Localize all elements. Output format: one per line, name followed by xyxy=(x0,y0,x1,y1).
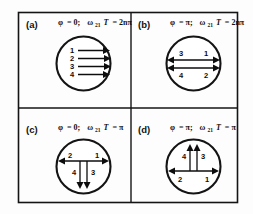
panel-a-circle xyxy=(57,37,111,91)
panel-d-period-value: = π xyxy=(225,123,237,132)
panel-b-condition: φ = π; ω 21 T = 2nπ xyxy=(170,18,245,29)
panel-b-label: (b) xyxy=(138,19,150,30)
panel-b-period-symbol: T xyxy=(216,18,222,27)
panel-b-phi-symbol: φ xyxy=(170,18,175,27)
panel-a-period-symbol: T xyxy=(104,18,110,27)
panel-a-period-value: = 2nπ xyxy=(112,18,132,27)
panel-c-omega-symbol: ω xyxy=(87,123,93,132)
panel-c-period-value: = π xyxy=(112,123,124,132)
svg-text:φ = 0; ω: φ = 0; ω 21 T = 2nπ xyxy=(58,18,132,29)
panel-b-circle xyxy=(167,37,221,91)
panel-c-condition: φ = 0; ω 21 T = π xyxy=(58,123,124,134)
panel-b-label-3: 3 xyxy=(179,49,183,58)
figure-root: (a) φ = 0; ω 21 T = 2nπ xyxy=(0,0,253,214)
panel-d-omega-subscript: 21 xyxy=(207,127,213,133)
panel-d-phi-symbol: φ xyxy=(170,123,175,132)
panel-a-omega-symbol: ω xyxy=(87,18,93,27)
panel-d-label-2: 2 xyxy=(178,175,182,184)
svg-text:φ = π; ω: φ = π; ω 21 T = 2nπ xyxy=(170,18,245,29)
panel-c-phi-symbol: φ xyxy=(58,123,63,132)
panel-d-circle xyxy=(167,140,221,194)
panel-b-label-2: 2 xyxy=(204,71,208,80)
panel-a-omega-subscript: 21 xyxy=(95,22,101,28)
panel-a-phi-value: = 0; xyxy=(67,18,81,27)
panel-b-phi-value: = π; xyxy=(179,18,193,27)
panel-b: (b) φ = π; ω 21 T = 2nπ xyxy=(138,18,245,91)
panel-c-label: (c) xyxy=(26,124,38,135)
panel-d-condition: φ = π; ω 21 T = π xyxy=(170,123,236,134)
panel-d-omega-symbol: ω xyxy=(200,123,206,132)
panel-c-label-2: 2 xyxy=(68,151,72,160)
panel-c-label-3: 3 xyxy=(91,168,95,177)
panel-d: (d) φ = π; ω 21 T = π xyxy=(138,123,236,194)
panel-d-period-symbol: T xyxy=(216,123,222,132)
panel-c-omega-subscript: 21 xyxy=(95,127,101,133)
panel-c-label-1: 1 xyxy=(95,151,99,160)
panel-b-omega-subscript: 21 xyxy=(207,22,213,28)
panel-c-period-symbol: T xyxy=(104,123,110,132)
panel-a-phi-symbol: φ xyxy=(58,18,63,27)
svg-text:φ = π; ω: φ = π; ω 21 T = π xyxy=(170,123,236,134)
panel-d-label-1: 1 xyxy=(205,175,209,184)
panel-c: (c) φ = 0; ω 21 T = π xyxy=(26,123,124,194)
svg-text:φ = 0; ω: φ = 0; ω 21 T = π xyxy=(58,123,124,134)
panel-d-phi-value: = π; xyxy=(179,123,193,132)
panel-b-omega-symbol: ω xyxy=(200,18,206,27)
figure-svg: (a) φ = 0; ω 21 T = 2nπ xyxy=(0,0,253,214)
panel-a: (a) φ = 0; ω 21 T = 2nπ xyxy=(26,18,132,91)
panel-b-label-1: 1 xyxy=(204,49,208,58)
panel-d-label: (d) xyxy=(138,124,150,135)
panel-b-period-value: = 2nπ xyxy=(225,18,245,27)
panel-c-phi-value: = 0; xyxy=(67,123,81,132)
panel-d-label-3: 3 xyxy=(201,152,205,161)
panel-a-condition: φ = 0; ω 21 T = 2nπ xyxy=(58,18,132,29)
panel-a-label: (a) xyxy=(26,19,38,30)
panel-c-circle xyxy=(57,140,111,194)
